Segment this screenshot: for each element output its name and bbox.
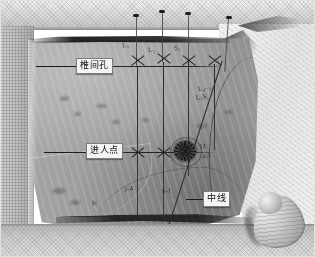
x-marker-upper-4 bbox=[207, 52, 223, 68]
needle-hub-3 bbox=[185, 12, 191, 15]
scribble-annotation: 5-1 bbox=[162, 187, 172, 195]
surgical-marking-photograph: L₄ L₅ S₁ L₄₋₅ L₅S₁ Lt 4-5 3-4 Ic 5-1 椎间孔… bbox=[0, 0, 315, 257]
x-marker-entry-1 bbox=[130, 144, 146, 160]
leader-line-foramen bbox=[36, 66, 76, 67]
x-marker-upper-3 bbox=[181, 52, 197, 68]
photo-scene: L₄ L₅ S₁ L₄₋₅ L₅S₁ Lt 4-5 3-4 Ic 5-1 椎间孔… bbox=[0, 0, 315, 257]
skin-mottle bbox=[70, 200, 80, 205]
needle-hub-2 bbox=[159, 10, 165, 13]
x-marker-upper-1 bbox=[130, 52, 146, 68]
scribble-annotation: L₄ bbox=[122, 42, 130, 50]
skin-mottle bbox=[224, 110, 233, 114]
leader-line-entry-point bbox=[44, 152, 86, 153]
scribble-annotation: L₅ bbox=[148, 47, 155, 55]
needle-hub-1 bbox=[133, 14, 139, 17]
leader-line-midline bbox=[186, 199, 203, 200]
skin-mottle bbox=[96, 104, 107, 108]
label-entry-point: 进人点 bbox=[86, 143, 123, 159]
marking-midline-trace bbox=[60, 216, 210, 217]
skin-mottle bbox=[74, 112, 81, 116]
film-edge-top bbox=[30, 36, 230, 43]
scribble-annotation: Lt bbox=[199, 142, 207, 150]
skin-mottle bbox=[60, 96, 69, 101]
marking-vertical-line-1 bbox=[137, 66, 138, 215]
label-midline: 中线 bbox=[203, 191, 230, 207]
scribble-annotation: Ic bbox=[92, 200, 98, 208]
x-marker-upper-2 bbox=[156, 50, 172, 66]
entry-point-starburst-marker bbox=[174, 141, 196, 161]
label-foramen: 椎间孔 bbox=[76, 58, 113, 74]
scribble-annotation: S₁ bbox=[174, 45, 181, 53]
scribble-annotation: 3-4 bbox=[124, 185, 134, 193]
skin-mottle bbox=[52, 188, 66, 194]
skin-mottle bbox=[112, 120, 120, 124]
skin-mottle bbox=[196, 124, 208, 128]
needle-hub-4 bbox=[226, 16, 232, 19]
skin-mottle bbox=[142, 118, 149, 122]
